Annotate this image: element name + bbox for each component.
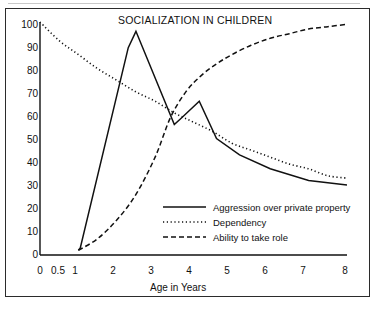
series-path-1 (40, 22, 347, 178)
plot-area (0, 0, 376, 309)
chart-page: SOCIALIZATION IN CHILDREN 100 90 80 70 6… (0, 0, 376, 309)
series-layer (40, 22, 347, 250)
series-path-2 (78, 24, 347, 250)
